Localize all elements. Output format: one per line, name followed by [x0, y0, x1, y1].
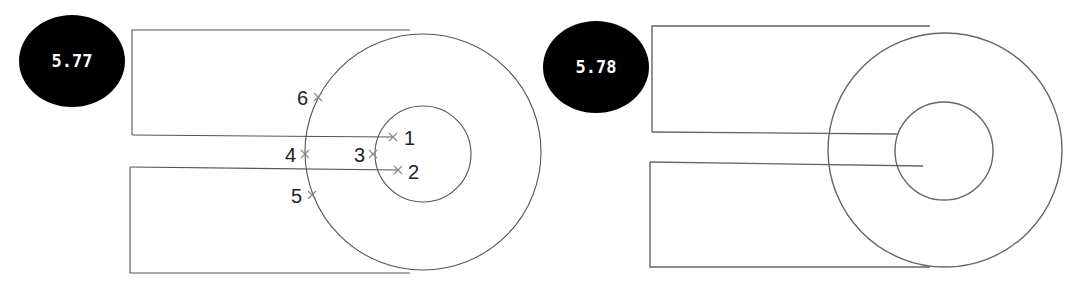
slot-line-1	[132, 135, 393, 137]
point-label: 4	[285, 144, 296, 166]
slot-line-2	[650, 162, 923, 166]
inner-circle	[895, 102, 993, 200]
diagram-canvas: 1234565.77 5.78	[0, 0, 1081, 290]
point-marker-5: 5	[291, 185, 316, 207]
figure-number-badge: 5.77	[19, 15, 125, 107]
point-label: 6	[297, 87, 308, 109]
inner-circle	[375, 106, 471, 202]
top-slot-outline	[132, 30, 410, 135]
figure-5-77: 1234565.77	[19, 15, 541, 273]
figure-number: 5.78	[576, 57, 617, 77]
point-marker-6: 6	[297, 87, 322, 109]
bottom-slot-outline	[130, 167, 410, 273]
point-marker-3: 3	[354, 144, 377, 166]
point-marker-2: 2	[394, 161, 419, 183]
slot-line-2	[130, 167, 398, 170]
point-label: 3	[354, 144, 365, 166]
figure-number-badge: 5.78	[543, 21, 649, 113]
outer-circle	[305, 34, 541, 270]
bottom-slot-outline	[650, 162, 930, 267]
point-label: 2	[408, 161, 419, 183]
slot-line-1	[652, 132, 897, 134]
top-slot-outline	[652, 26, 930, 132]
figure-number: 5.77	[52, 51, 93, 71]
point-marker-1: 1	[389, 127, 415, 149]
figure-5-78: 5.78	[543, 21, 1062, 267]
point-label: 5	[291, 185, 302, 207]
outer-circle	[828, 33, 1062, 267]
point-label: 1	[404, 127, 415, 149]
